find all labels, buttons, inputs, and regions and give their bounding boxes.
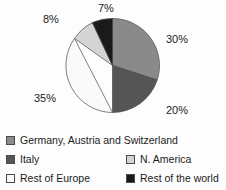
legend-label-n-america: N. America — [140, 154, 191, 165]
legend-item-italy[interactable]: Italy — [6, 150, 39, 168]
legend-item-rest-of-europe[interactable]: Rest of Europe — [6, 169, 90, 187]
legend-label-rest-of-the-world: Rest of the world — [140, 173, 219, 184]
legend-label-italy: Italy — [20, 154, 39, 165]
legend-swatch-n-america — [126, 155, 135, 164]
slice-value-label-rest-of-europe: 35% — [34, 92, 56, 104]
legend-swatch-rest-of-the-world — [126, 174, 135, 183]
legend-swatch-germany-austria-switzerland — [6, 136, 15, 145]
pie-chart-figure: 30% 20% 35% 8% 7% Germany, Austria and S… — [0, 0, 226, 190]
pie-plot-area: 30% 20% 35% 8% 7% — [0, 0, 226, 128]
slice-value-label-italy: 20% — [166, 104, 188, 116]
legend-item-rest-of-the-world[interactable]: Rest of the world — [126, 169, 219, 187]
legend-item-n-america[interactable]: N. America — [126, 150, 191, 168]
legend-item-germany-austria-switzerland[interactable]: Germany, Austria and Switzerland — [6, 131, 178, 149]
pie-chart-graphic — [0, 0, 226, 128]
slice-value-label-rest-of-the-world: 7% — [98, 2, 114, 14]
legend-swatch-italy — [6, 155, 15, 164]
legend-label-germany-austria-switzerland: Germany, Austria and Switzerland — [20, 135, 178, 146]
legend-swatch-rest-of-europe — [6, 174, 15, 183]
slice-value-label-germany-austria-switzerland: 30% — [166, 33, 188, 45]
slice-value-label-n-america: 8% — [43, 13, 59, 25]
chart-legend: Germany, Austria and Switzerland Italy R… — [0, 130, 226, 190]
legend-label-rest-of-europe: Rest of Europe — [20, 173, 90, 184]
